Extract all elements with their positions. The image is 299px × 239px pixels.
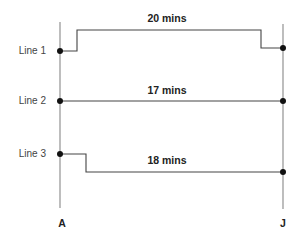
start-node-icon [57, 48, 63, 54]
endpoint-label-a: A [58, 217, 66, 229]
route-label: Line 2 [19, 95, 47, 106]
route-path [60, 30, 283, 51]
route-duration: 20 mins [147, 12, 186, 24]
end-node-icon [280, 98, 286, 104]
end-node-icon [280, 169, 286, 175]
route-diagram: Line 1 20 mins Line 2 17 mins Line 3 18 … [0, 0, 299, 239]
route-label: Line 3 [19, 148, 47, 159]
route-line-3: Line 3 18 mins [19, 148, 286, 175]
route-line-2: Line 2 17 mins [19, 84, 286, 106]
start-node-icon [57, 151, 63, 157]
route-duration: 17 mins [147, 84, 186, 96]
endpoint-label-j: J [280, 217, 286, 229]
route-label: Line 1 [19, 45, 47, 56]
start-node-icon [57, 98, 63, 104]
route-duration: 18 mins [147, 154, 186, 166]
end-node-icon [280, 45, 286, 51]
route-line-1: Line 1 20 mins [19, 12, 286, 56]
